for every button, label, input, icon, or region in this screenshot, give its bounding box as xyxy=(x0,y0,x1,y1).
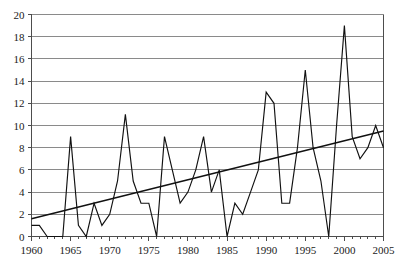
x-axis-label-1975: 1975 xyxy=(138,244,161,256)
y-axis-label-18: 18 xyxy=(14,31,26,43)
x-axis-label-2000: 2000 xyxy=(333,244,356,256)
y-axis-label-20: 20 xyxy=(14,9,26,21)
y-axis-label-4: 4 xyxy=(19,186,25,198)
x-axis-label-1990: 1990 xyxy=(255,244,278,256)
x-axis-label-1965: 1965 xyxy=(60,244,83,256)
y-axis-label-8: 8 xyxy=(19,142,25,154)
x-axis-label-1980: 1980 xyxy=(177,244,200,256)
x-axis-label-1960: 1960 xyxy=(21,244,44,256)
y-axis-label-16: 16 xyxy=(14,53,26,65)
x-axis-label-2005: 2005 xyxy=(373,244,396,256)
chart-background xyxy=(0,0,399,262)
chart-container: 02468101214161820 1960196519701975198019… xyxy=(0,0,399,262)
x-axis-label-1970: 1970 xyxy=(99,244,122,256)
y-axis-label-10: 10 xyxy=(14,120,26,132)
y-axis-label-14: 14 xyxy=(14,75,26,87)
y-axis-label-2: 2 xyxy=(19,208,25,220)
x-axis-label-1995: 1995 xyxy=(294,244,317,256)
line-chart: 02468101214161820 1960196519701975198019… xyxy=(0,0,399,262)
y-axis-label-0: 0 xyxy=(19,231,25,243)
y-axis-label-6: 6 xyxy=(19,164,25,176)
x-axis-label-1985: 1985 xyxy=(216,244,239,256)
y-axis-label-12: 12 xyxy=(14,97,25,109)
